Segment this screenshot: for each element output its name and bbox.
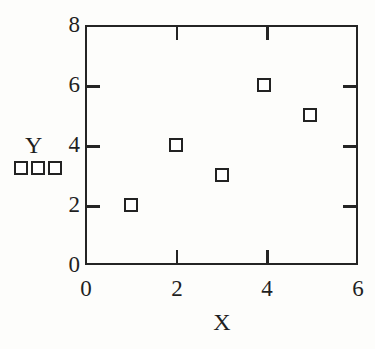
plot-frame xyxy=(85,25,358,265)
y-tick-label-6: 6 xyxy=(47,73,80,96)
y-tick-left-4 xyxy=(85,145,100,148)
x-axis-title: X xyxy=(197,310,247,334)
y-tick-right-2 xyxy=(343,205,358,208)
data-point-marker xyxy=(257,78,271,92)
x-tick-top-2 xyxy=(176,25,179,40)
data-point-marker xyxy=(303,108,317,122)
legend-swatch-1 xyxy=(14,161,28,175)
y-tick-label-8: 8 xyxy=(47,13,80,36)
x-tick-label-2: 2 xyxy=(157,277,197,300)
data-point-marker xyxy=(169,138,183,152)
data-point-marker xyxy=(215,168,229,182)
x-tick-label-0: 0 xyxy=(66,277,106,300)
data-point-marker xyxy=(124,198,138,212)
y-tick-left-2 xyxy=(85,205,100,208)
scatter-plot-figure: 8 6 4 2 0 0 2 4 6 Y X xyxy=(0,0,375,349)
legend-swatch-2 xyxy=(31,161,45,175)
y-tick-right-6 xyxy=(343,85,358,88)
x-tick-top-4 xyxy=(266,25,269,40)
y-tick-label-0: 0 xyxy=(47,253,80,276)
y-tick-label-4: 4 xyxy=(47,133,80,156)
x-tick-label-4: 4 xyxy=(247,277,287,300)
x-tick-bottom-4 xyxy=(266,250,269,265)
x-tick-label-6: 6 xyxy=(338,277,375,300)
y-tick-label-2: 2 xyxy=(47,193,80,216)
legend-swatch-3 xyxy=(48,161,62,175)
y-tick-left-6 xyxy=(85,85,100,88)
y-axis-title: Y xyxy=(25,133,42,157)
x-tick-bottom-2 xyxy=(176,250,179,265)
y-tick-right-4 xyxy=(343,145,358,148)
